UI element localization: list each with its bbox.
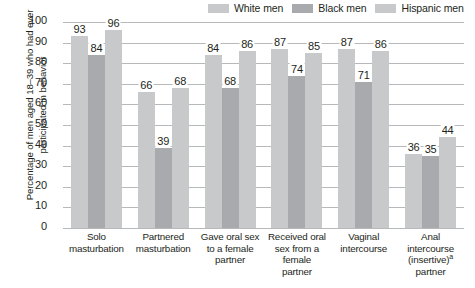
- bar-group: 663968: [130, 22, 197, 228]
- plot-area: 1009080706050403020100 93849666396884688…: [63, 22, 464, 228]
- bar-group: 877186: [330, 22, 397, 228]
- bar-value-label: 84: [206, 42, 221, 54]
- bar-slot: 86: [239, 22, 256, 228]
- bar-value-label: 85: [306, 40, 321, 52]
- bar-slot: 68: [222, 22, 239, 228]
- bar-slot: 87: [338, 22, 355, 228]
- chart-legend: White men Black men Hispanic men: [208, 1, 473, 15]
- bar[interactable]: [422, 156, 439, 228]
- bar-slot: 87: [271, 22, 288, 228]
- bar-group: 877485: [263, 22, 330, 228]
- bar-value-label: 87: [272, 36, 287, 48]
- legend-swatch-hispanic-men: [375, 4, 396, 13]
- bar-chart: White men Black men Hispanic men Percent…: [0, 0, 475, 288]
- bar-slot: 66: [138, 22, 155, 228]
- bar-value-label: 93: [72, 23, 87, 35]
- bar[interactable]: [271, 49, 288, 228]
- legend-swatch-black-men: [292, 4, 313, 13]
- bar-group: 938496: [63, 22, 130, 228]
- legend-item-hispanic-men: Hispanic men: [375, 2, 463, 14]
- x-axis-label: Gave oral sexto a femalepartner: [197, 231, 264, 277]
- y-tick-label: 40: [7, 138, 47, 150]
- bar[interactable]: [239, 51, 256, 228]
- bar-slot: 71: [355, 22, 372, 228]
- bar-slot: 39: [155, 22, 172, 228]
- bar-slot: 96: [105, 22, 122, 228]
- x-axis-label: Received oralsex from afemalepartner: [263, 231, 330, 277]
- bar-value-label: 36: [406, 141, 421, 153]
- bar[interactable]: [138, 92, 155, 228]
- bar[interactable]: [222, 88, 239, 228]
- bar-value-label: 68: [223, 75, 238, 87]
- y-tick-label: 50: [7, 117, 47, 129]
- legend-label-white-men: White men: [234, 2, 283, 14]
- bar[interactable]: [439, 137, 456, 228]
- y-tick-label: 80: [7, 55, 47, 67]
- bar-slot: 84: [88, 22, 105, 228]
- bar-slot: 74: [288, 22, 305, 228]
- legend-item-black-men: Black men: [292, 2, 366, 14]
- bar[interactable]: [71, 36, 88, 228]
- bar[interactable]: [288, 76, 305, 228]
- bar-value-label: 74: [289, 63, 304, 75]
- bar-slot: 86: [372, 22, 389, 228]
- x-axis-label: Partneredmasturbation: [130, 231, 197, 277]
- bar[interactable]: [305, 53, 322, 228]
- y-tick-label: 0: [7, 220, 47, 232]
- bar-slot: 44: [439, 22, 456, 228]
- bar[interactable]: [405, 154, 422, 228]
- bar-value-label: 86: [373, 38, 388, 50]
- y-tick-label: 100: [7, 14, 47, 26]
- y-tick-label: 90: [7, 35, 47, 47]
- bar[interactable]: [105, 30, 122, 228]
- y-tick-label: 10: [7, 199, 47, 211]
- bar[interactable]: [88, 55, 105, 228]
- bar-slot: 68: [172, 22, 189, 228]
- x-axis-label: Vaginalintercourse: [330, 231, 397, 277]
- y-tick-label: 20: [7, 179, 47, 191]
- bar-value-label: 96: [106, 17, 121, 29]
- bar-slot: 36: [405, 22, 422, 228]
- x-axis-label: Solomasturbation: [63, 231, 130, 277]
- bar-value-label: 71: [356, 69, 371, 81]
- bar[interactable]: [172, 88, 189, 228]
- legend-swatch-white-men: [208, 4, 229, 13]
- legend-item-white-men: White men: [208, 2, 283, 14]
- x-axis-label: Analintercourse(insertive)apartner: [397, 231, 464, 277]
- legend-label-hispanic-men: Hispanic men: [401, 2, 463, 14]
- bar[interactable]: [205, 55, 222, 228]
- bar[interactable]: [372, 51, 389, 228]
- bar-slot: 85: [305, 22, 322, 228]
- bar-group: 363544: [397, 22, 464, 228]
- bar[interactable]: [338, 49, 355, 228]
- bar-groups: 938496663968846886877485877186363544: [63, 22, 464, 228]
- bar-value-label: 68: [173, 75, 188, 87]
- y-tick-label: 30: [7, 158, 47, 170]
- bar-value-label: 84: [89, 42, 104, 54]
- bar-value-label: 66: [139, 79, 154, 91]
- bar-slot: 93: [71, 22, 88, 228]
- legend-label-black-men: Black men: [318, 2, 366, 14]
- bar[interactable]: [355, 82, 372, 228]
- bar-slot: 35: [422, 22, 439, 228]
- bar-slot: 84: [205, 22, 222, 228]
- bar-value-label: 39: [156, 135, 171, 147]
- bar-value-label: 35: [423, 143, 438, 155]
- y-tick-label: 70: [7, 76, 47, 88]
- bar-value-label: 87: [339, 36, 354, 48]
- bar-value-label: 44: [440, 124, 455, 136]
- bar-value-label: 86: [240, 38, 255, 50]
- x-axis-labels: SolomasturbationPartneredmasturbationGav…: [63, 231, 464, 277]
- y-tick-label: 60: [7, 96, 47, 108]
- gridline: [63, 228, 464, 229]
- bar[interactable]: [155, 148, 172, 228]
- bar-group: 846886: [197, 22, 264, 228]
